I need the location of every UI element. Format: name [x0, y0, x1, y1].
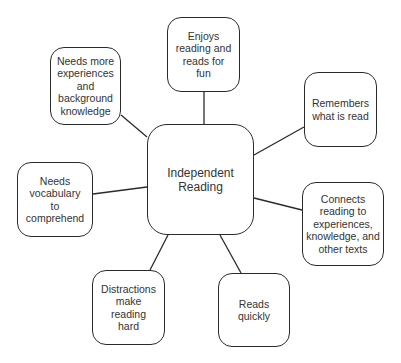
node-label: Remembers what is read [312, 97, 369, 122]
connector-vocabulary [93, 187, 147, 194]
node-label: Needs vocabulary to comprehend [26, 175, 84, 225]
connector-connects [254, 198, 302, 210]
connector-distractions [150, 235, 168, 270]
concept-web-diagram: Independent Reading Enjoys reading and r… [0, 0, 401, 363]
connector-remembers [254, 127, 304, 155]
node-label: Reads quickly [238, 298, 270, 323]
center-node-independent-reading: Independent Reading [147, 124, 254, 235]
node-label: Enjoys reading and reads for fun [176, 30, 231, 80]
node-label: Needs more experiences and background kn… [57, 55, 114, 118]
node-vocabulary: Needs vocabulary to comprehend [17, 162, 93, 237]
connector-reads-quickly [220, 235, 241, 273]
node-experiences: Needs more experiences and background kn… [50, 47, 121, 125]
node-distractions: Distractions make reading hard [92, 270, 165, 345]
node-connects: Connects reading to experiences, knowled… [302, 182, 384, 266]
connector-experiences [121, 115, 147, 137]
node-reads-quickly: Reads quickly [218, 273, 290, 347]
node-remembers: Remembers what is read [304, 72, 377, 147]
center-node-label: Independent Reading [167, 166, 234, 194]
node-label: Distractions make reading hard [101, 283, 156, 333]
node-label: Connects reading to experiences, knowled… [306, 193, 380, 256]
node-enjoys-reading: Enjoys reading and reads for fun [167, 17, 240, 92]
